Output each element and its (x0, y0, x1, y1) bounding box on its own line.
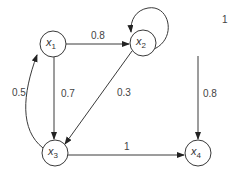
edge-label-x3-x4: 1 (124, 141, 130, 152)
node-x4: x4 (185, 140, 211, 166)
node-x1: x1 (40, 31, 66, 57)
edge-x3-x1 (26, 55, 43, 148)
node-x3: x3 (42, 140, 68, 166)
edge-label-x2-x2: 1 (222, 14, 228, 25)
graph-diagram: 0.8 1 0.7 0.3 0.8 0.5 1 x1 x2 x3 x4 (0, 0, 239, 172)
node-x2: x2 (130, 30, 156, 56)
edge-label-x2-x3: 0.3 (117, 87, 131, 98)
edge-label-x3-x1: 0.5 (12, 87, 26, 98)
edge-label-x1-x2: 0.8 (91, 30, 105, 41)
edge-label-x1-x3: 0.7 (61, 88, 75, 99)
edge-label-x2-x4: 0.8 (203, 88, 217, 99)
